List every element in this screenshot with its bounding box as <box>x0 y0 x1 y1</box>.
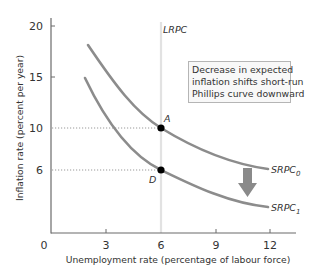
lrpc-label: LRPC <box>163 24 188 35</box>
point-a-label: A <box>163 113 171 124</box>
y-tick-label-10: 10 <box>29 122 43 135</box>
y-axis-title: Inflation rate (percent per year) <box>14 55 25 201</box>
annotation-line-2: inflation shifts short-run <box>192 76 304 87</box>
y-tick-label-6: 6 <box>36 164 43 177</box>
x-tick-label-0: 0 <box>41 239 48 252</box>
annotation-line-1: Decrease in expected <box>192 64 293 75</box>
annotation-line-3: Phillips curve downward <box>192 88 305 99</box>
point-a-marker <box>157 124 164 131</box>
x-tick-label-3: 3 <box>103 239 110 252</box>
x-axis-title: Unemployment rate (percentage of labour … <box>66 254 291 265</box>
x-tick-label-12: 12 <box>263 239 277 252</box>
y-tick-label-15: 15 <box>29 71 43 84</box>
phillips-curve-chart: LRPC 20 15 10 6 0 3 6 9 12 Unemployment … <box>0 0 319 271</box>
x-tick-label-6: 6 <box>158 239 165 252</box>
srpc0-label: SRPC0 <box>271 164 301 178</box>
x-tick-label-9: 9 <box>213 239 220 252</box>
srpc1-label: SRPC1 <box>271 202 300 216</box>
y-tick-label-20: 20 <box>29 20 43 33</box>
point-d-marker <box>157 166 164 173</box>
point-d-label: D <box>149 174 156 185</box>
shift-down-arrow-icon <box>238 168 257 197</box>
